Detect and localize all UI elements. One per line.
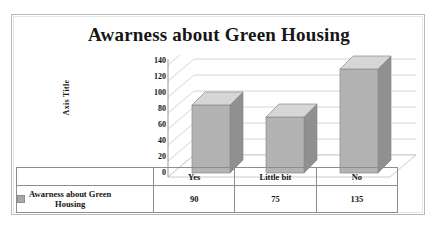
legend-spacer-cell bbox=[17, 168, 154, 186]
value-cell-yes: 90 bbox=[154, 186, 235, 213]
bar-yes bbox=[192, 92, 243, 173]
chart-title: Awarness about Green Housing bbox=[12, 24, 426, 46]
y-axis-title: Axis Title bbox=[62, 66, 71, 130]
bar-group bbox=[192, 56, 391, 173]
value-cell-little-bit: 75 bbox=[235, 186, 316, 213]
category-header-little-bit: Little bit bbox=[235, 168, 316, 186]
table-row-categories: Yes Little bit No bbox=[17, 168, 398, 186]
bar-side-face bbox=[230, 92, 243, 173]
category-header-yes: Yes bbox=[154, 168, 235, 186]
legend-label-line2: Housing bbox=[55, 199, 85, 209]
legend-label: Awarness about Green Housing bbox=[29, 189, 111, 209]
legend-cell: Awarness about Green Housing bbox=[17, 186, 154, 213]
bar-front-face bbox=[192, 105, 230, 173]
series-color-swatch-icon bbox=[17, 195, 25, 203]
data-table: Yes Little bit No Awarness about Green H… bbox=[16, 167, 398, 213]
legend-label-line1: Awarness about Green bbox=[29, 189, 111, 199]
plot-svg bbox=[130, 55, 416, 183]
table-row-values: Awarness about Green Housing 90 75 135 bbox=[17, 186, 398, 213]
category-header-no: No bbox=[316, 168, 397, 186]
bar-little-bit bbox=[266, 104, 317, 173]
bar-side-face bbox=[378, 56, 391, 173]
bar-front-face bbox=[340, 69, 378, 173]
value-cell-no: 135 bbox=[316, 186, 397, 213]
plot-area bbox=[130, 55, 416, 183]
bar-front-face bbox=[266, 117, 304, 173]
bar-no bbox=[340, 56, 391, 173]
